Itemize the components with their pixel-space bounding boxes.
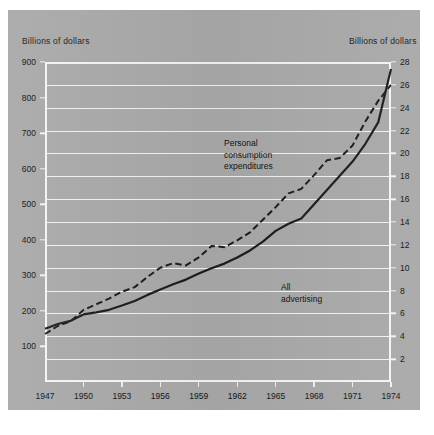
right-tick-label: 8	[400, 286, 405, 296]
x-tick-mark	[121, 382, 122, 387]
right-tick-label: 12	[400, 240, 409, 250]
plot-area	[45, 62, 391, 382]
left-tick-mark	[40, 132, 45, 133]
x-tick-label: 1959	[189, 391, 208, 401]
right-tick-mark	[391, 107, 396, 108]
x-tick-label: 1947	[36, 391, 55, 401]
left-tick-label: 900	[22, 57, 36, 67]
left-tick-label: 200	[22, 306, 36, 316]
left-tick-label: 600	[22, 164, 36, 174]
right-tick-mark	[391, 244, 396, 245]
annotation-pce-line2: consumption	[224, 150, 273, 162]
right-tick-label: 28	[400, 57, 409, 67]
left-tick-mark	[40, 204, 45, 205]
right-tick-mark	[391, 84, 396, 85]
left-tick-label: 400	[22, 235, 36, 245]
x-tick-mark	[160, 382, 161, 387]
x-tick-label: 1956	[151, 391, 170, 401]
left-tick-mark	[40, 97, 45, 98]
x-tick-mark	[390, 382, 391, 387]
annotation-pce-line1: Personal	[224, 138, 273, 150]
right-tick-label: 22	[400, 126, 409, 136]
left-tick-mark	[40, 61, 45, 62]
right-tick-mark	[391, 313, 396, 314]
right-tick-label: 10	[400, 263, 409, 273]
right-axis-header: Billions of dollars	[349, 36, 417, 46]
left-tick-label: 100	[22, 341, 36, 351]
series-personal-consumption-expenditures	[45, 69, 391, 329]
left-tick-mark	[40, 275, 45, 276]
chart-page: Billions of dollars Billions of dollars …	[0, 0, 434, 435]
right-tick-label: 18	[400, 171, 409, 181]
left-tick-label: 700	[22, 128, 36, 138]
chart-panel: Billions of dollars Billions of dollars …	[8, 10, 420, 410]
left-tick-mark	[40, 310, 45, 311]
left-tick-label: 800	[22, 93, 36, 103]
x-tick-mark	[313, 382, 314, 387]
left-axis-header: Billions of dollars	[22, 36, 90, 46]
right-tick-label: 24	[400, 103, 409, 113]
annotation-adv-line2: advertising	[281, 294, 322, 306]
x-tick-label: 1971	[343, 391, 362, 401]
right-tick-mark	[391, 176, 396, 177]
x-tick-label: 1974	[382, 391, 401, 401]
x-tick-label: 1968	[305, 391, 324, 401]
x-tick-mark	[83, 382, 84, 387]
right-tick-label: 4	[400, 331, 405, 341]
left-tick-label: 500	[22, 199, 36, 209]
right-tick-label: 26	[400, 80, 409, 90]
annotation-adv-line1: All	[281, 282, 322, 294]
x-tick-mark	[237, 382, 238, 387]
right-tick-mark	[391, 130, 396, 131]
series-layer	[45, 62, 391, 382]
right-tick-label: 16	[400, 194, 409, 204]
right-tick-mark	[391, 221, 396, 222]
left-tick-mark	[40, 168, 45, 169]
right-tick-label: 20	[400, 148, 409, 158]
series-all-advertising	[45, 85, 391, 334]
right-tick-mark	[391, 290, 396, 291]
right-tick-mark	[391, 358, 396, 359]
left-tick-label: 300	[22, 270, 36, 280]
left-tick-mark	[40, 346, 45, 347]
right-tick-mark	[391, 267, 396, 268]
x-tick-mark	[198, 382, 199, 387]
right-tick-mark	[391, 198, 396, 199]
right-tick-mark	[391, 61, 396, 62]
right-tick-label: 2	[400, 354, 405, 364]
annotation-advertising: All advertising	[281, 282, 322, 305]
right-tick-mark	[391, 153, 396, 154]
x-tick-mark	[275, 382, 276, 387]
left-tick-mark	[40, 239, 45, 240]
x-tick-label: 1965	[266, 391, 285, 401]
annotation-pce: Personal consumption expenditures	[224, 138, 273, 173]
x-tick-label: 1962	[228, 391, 247, 401]
right-tick-label: 6	[400, 308, 405, 318]
x-tick-label: 1953	[112, 391, 131, 401]
annotation-pce-line3: expenditures	[224, 161, 273, 173]
x-tick-label: 1950	[74, 391, 93, 401]
x-tick-mark	[352, 382, 353, 387]
right-tick-label: 14	[400, 217, 409, 227]
right-tick-mark	[391, 336, 396, 337]
